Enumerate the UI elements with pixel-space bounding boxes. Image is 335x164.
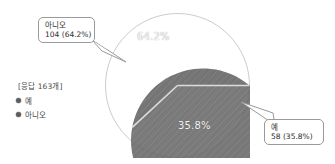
callout-no-detail: 104 (64.2%) <box>45 30 89 39</box>
callout-box-yes: 예 58 (35.8%) <box>264 119 324 145</box>
legend-item-yes[interactable]: 예 <box>16 95 96 106</box>
legend-dot-icon <box>16 112 21 117</box>
legend-item-label-yes: 예 <box>25 95 32 106</box>
pie-texture-overlay <box>105 13 250 158</box>
legend: [응답 163개] 예 아니오 <box>16 80 96 123</box>
slice-label-no: 64.2% <box>137 31 170 42</box>
callout-no-name: 아니오 <box>45 21 89 30</box>
legend-item-no[interactable]: 아니오 <box>16 109 96 120</box>
legend-item-label-no: 아니오 <box>25 109 46 120</box>
callout-yes: 예 58 (35.8%) <box>264 119 324 145</box>
legend-dot-icon <box>16 98 21 103</box>
callout-no: 아니오 104 (64.2%) <box>38 17 95 43</box>
callout-yes-name: 예 <box>271 123 318 132</box>
callout-box-no: 아니오 104 (64.2%) <box>38 17 95 43</box>
legend-title: [응답 163개] <box>18 80 96 91</box>
chart-canvas: 64.2% 35.8% [응답 163개] 예 아니오 아니오 104 (64.… <box>0 0 335 164</box>
pie-chart <box>105 13 250 158</box>
slice-label-yes: 35.8% <box>178 120 211 131</box>
callout-yes-detail: 58 (35.8%) <box>271 132 318 141</box>
